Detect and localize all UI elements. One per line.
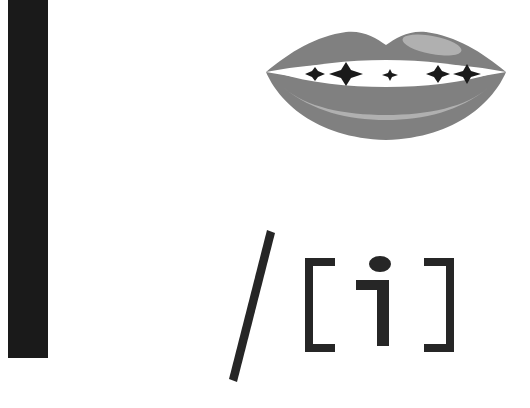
i-dot-glyph xyxy=(369,256,391,272)
i-stem-glyph xyxy=(356,280,389,346)
lips-label: sparkling lips illustration xyxy=(0,0,1,1)
left-bracket-glyph xyxy=(305,258,335,352)
lips-illustration xyxy=(262,16,510,144)
right-bracket-glyph xyxy=(424,258,454,352)
notation-label: phonetic transcription xyxy=(0,0,1,1)
phonetic-notation xyxy=(222,222,472,392)
slash-glyph xyxy=(229,230,275,382)
figure-canvas: / [ i ] sparkling lips illustration phon… xyxy=(0,0,530,408)
black-vertical-bar xyxy=(8,0,48,358)
notation-text: / [ i ] xyxy=(0,0,1,1)
